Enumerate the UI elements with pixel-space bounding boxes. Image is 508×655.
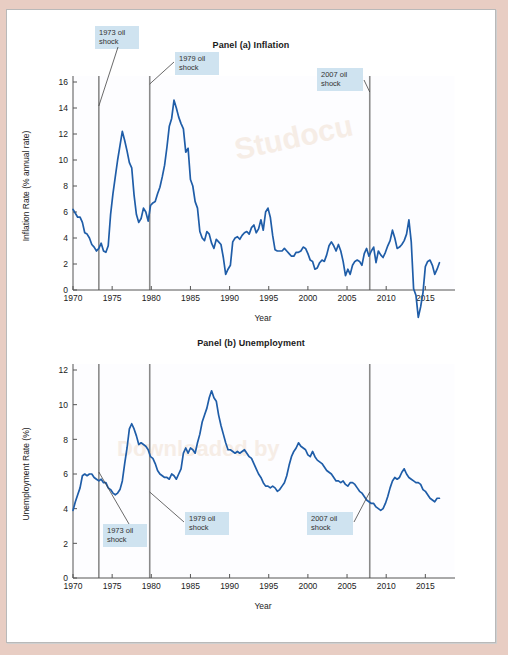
svg-text:2: 2 (63, 259, 68, 269)
svg-text:4: 4 (63, 233, 68, 243)
svg-text:1973 oil: 1973 oil (107, 526, 134, 535)
svg-text:10: 10 (59, 400, 69, 410)
svg-text:6: 6 (63, 469, 68, 479)
svg-text:1985: 1985 (181, 293, 200, 303)
figure-frame: Panel (a) Inflation Studocu0246810121416… (6, 9, 496, 643)
svg-text:2010: 2010 (377, 293, 396, 303)
svg-text:Year: Year (254, 601, 271, 611)
svg-text:1990: 1990 (220, 293, 239, 303)
svg-text:2010: 2010 (377, 581, 396, 591)
panel-b-title: Panel (b) Unemployment (7, 338, 495, 348)
svg-text:1970: 1970 (64, 581, 83, 591)
svg-text:1985: 1985 (181, 581, 200, 591)
svg-text:1995: 1995 (259, 293, 278, 303)
panel-a-title: Panel (a) Inflation (7, 40, 495, 50)
svg-text:shock: shock (189, 523, 209, 532)
svg-text:1979 oil: 1979 oil (179, 54, 206, 63)
svg-text:shock: shock (321, 79, 341, 88)
svg-text:10: 10 (59, 155, 69, 165)
svg-text:2005: 2005 (338, 293, 357, 303)
svg-text:1980: 1980 (142, 581, 161, 591)
svg-text:8: 8 (63, 181, 68, 191)
svg-text:shock: shock (311, 523, 331, 532)
svg-text:6: 6 (63, 207, 68, 217)
svg-text:2000: 2000 (298, 293, 317, 303)
unemployment-chart-svg: Downloaded by024681012197019751980198519… (7, 326, 495, 642)
svg-text:1990: 1990 (220, 581, 239, 591)
svg-text:1975: 1975 (103, 581, 122, 591)
svg-text:2000: 2000 (298, 581, 317, 591)
svg-text:2: 2 (63, 539, 68, 549)
inflation-chart-svg: Studocu024681012141619701975198019851990… (7, 10, 495, 326)
svg-text:shock: shock (179, 63, 199, 72)
svg-text:Year: Year (254, 313, 271, 323)
panel-unemployment: Panel (b) Unemployment Downloaded by0246… (7, 326, 495, 642)
svg-text:2007 oil: 2007 oil (311, 514, 338, 523)
svg-text:1980: 1980 (142, 293, 161, 303)
svg-text:12: 12 (59, 129, 69, 139)
svg-text:2005: 2005 (338, 581, 357, 591)
svg-text:1975: 1975 (103, 293, 122, 303)
svg-text:Inflation Rate (% annual rate): Inflation Rate (% annual rate) (21, 131, 31, 242)
svg-text:16: 16 (59, 77, 69, 87)
svg-text:12: 12 (59, 365, 69, 375)
svg-text:shock: shock (107, 535, 127, 544)
svg-text:14: 14 (59, 103, 69, 113)
svg-text:1995: 1995 (259, 581, 278, 591)
svg-text:8: 8 (63, 435, 68, 445)
svg-text:4: 4 (63, 504, 68, 514)
svg-text:2007 oil: 2007 oil (321, 70, 348, 79)
svg-text:1979 oil: 1979 oil (189, 514, 216, 523)
svg-text:2015: 2015 (416, 581, 435, 591)
svg-text:1970: 1970 (64, 293, 83, 303)
panel-inflation: Panel (a) Inflation Studocu0246810121416… (7, 10, 495, 326)
svg-text:Unemployment Rate (%): Unemployment Rate (%) (21, 427, 31, 520)
svg-text:2015: 2015 (416, 293, 435, 303)
svg-text:1973 oil: 1973 oil (99, 28, 126, 37)
